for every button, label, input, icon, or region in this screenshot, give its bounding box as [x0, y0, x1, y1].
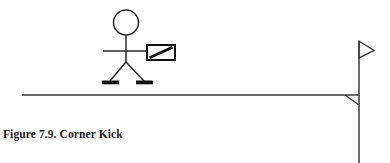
- referee-foot-left: [102, 81, 119, 85]
- corner-pennant: [359, 41, 374, 58]
- signal-flag-icon: [147, 45, 175, 60]
- referee-figure: [102, 10, 153, 84]
- referee-leg-right: [126, 62, 144, 81]
- referee-foot-right: [136, 81, 153, 85]
- figure-caption: Figure 7.9. Corner Kick: [3, 127, 123, 141]
- corner-area-marker: [345, 95, 359, 105]
- corner-post-icon: [345, 41, 374, 163]
- referee-leg-left: [110, 62, 126, 81]
- referee-head-icon: [114, 10, 139, 35]
- figure-container: Figure 7.9. Corner Kick: [0, 0, 390, 163]
